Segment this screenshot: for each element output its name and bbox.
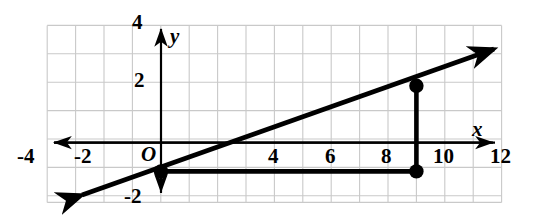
coordinate-plane [0,0,535,220]
x-tick-label-4: 4 [268,146,279,167]
y-tick-label-neg2: -2 [124,186,142,207]
point-9-neg1 [409,164,423,178]
point-9-2 [409,79,423,93]
x-tick-label-6: 6 [325,146,336,167]
x-tick-label-neg4: -4 [17,146,35,167]
grid-lines [47,25,501,202]
origin-label: O [141,144,156,165]
x-tick-label-8: 8 [381,146,392,167]
x-axis-label: x [472,119,483,140]
slope-triangle [161,86,416,172]
y-axis-label: y [170,26,179,47]
y-tick-label-2: 2 [134,70,145,91]
x-tick-label-12: 12 [490,146,511,167]
y-tick-label-4: 4 [132,12,143,33]
graph-figure: 4 2 -2 -4 -2 4 6 8 10 12 O x y [0,0,535,220]
x-tick-label-neg2: -2 [74,146,92,167]
point-origin-intercept [154,164,168,178]
x-tick-label-10: 10 [433,146,454,167]
